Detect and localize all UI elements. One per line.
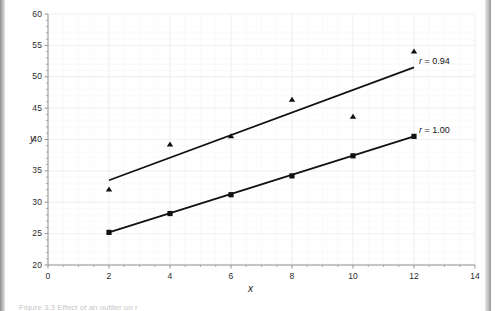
x-axis-title: x xyxy=(248,283,253,294)
x-tick-label: 8 xyxy=(279,271,305,281)
x-tick-label: 12 xyxy=(401,271,427,281)
correlation-value: = 1.00 xyxy=(422,125,450,135)
y-tick-label: 45 xyxy=(16,103,42,113)
data-point xyxy=(228,192,233,197)
data-point xyxy=(106,187,112,192)
page-edge-right xyxy=(485,0,491,311)
x-tick-label: 14 xyxy=(462,271,488,281)
x-tick-label: 6 xyxy=(218,271,244,281)
data-point xyxy=(106,230,111,235)
series-1-markers xyxy=(106,49,417,192)
data-point xyxy=(350,153,355,158)
y-tick-label: 30 xyxy=(16,197,42,207)
data-point xyxy=(289,173,294,178)
figure-container: y x 202530354045505560 02468101214 r = 0… xyxy=(5,0,485,311)
caption-remnant: Figure 3.3 Effect of an outlier on r xyxy=(19,303,279,311)
y-tick-label: 20 xyxy=(16,260,42,270)
correlation-value: = 0.94 xyxy=(422,56,450,66)
y-tick-label: 25 xyxy=(16,228,42,238)
data-point xyxy=(411,134,416,139)
series-1-label: r = 0.94 xyxy=(419,56,450,66)
page-canvas: y x 202530354045505560 02468101214 r = 0… xyxy=(0,0,496,311)
series-2-trendline xyxy=(109,136,414,232)
plot-area xyxy=(48,14,475,265)
data-point xyxy=(167,211,172,216)
x-tick-label: 4 xyxy=(157,271,183,281)
y-tick-label: 60 xyxy=(16,9,42,19)
series-1-trendline xyxy=(109,67,414,180)
y-tick-label: 55 xyxy=(16,40,42,50)
x-tick-label: 2 xyxy=(96,271,122,281)
series-2-label: r = 1.00 xyxy=(419,125,450,135)
data-point xyxy=(167,141,173,146)
data-point xyxy=(350,114,356,119)
y-tick-label: 35 xyxy=(16,165,42,175)
data-point xyxy=(289,97,295,102)
data-point xyxy=(411,49,417,54)
y-tick-label: 50 xyxy=(16,71,42,81)
y-tick-label: 40 xyxy=(16,134,42,144)
x-tick-label: 10 xyxy=(340,271,366,281)
x-tick-label: 0 xyxy=(35,271,61,281)
plot-series-layer xyxy=(48,14,475,265)
